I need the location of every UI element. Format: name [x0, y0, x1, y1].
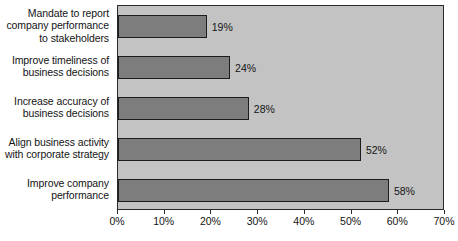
x-axis-tick-label: 30% [247, 215, 268, 228]
category-label: Increase accuracy ofbusiness decisions [0, 95, 109, 120]
x-axis-tick [397, 210, 398, 214]
x-axis-tick-label: 20% [200, 215, 221, 228]
x-axis-tick-labels: 0%10%20%30%40%50%60%70% [117, 215, 444, 231]
category-label-line: Improve company [0, 177, 109, 190]
x-axis-tick-label: 70% [433, 215, 454, 228]
category-label-line: Improve timeliness of [0, 54, 109, 67]
category-label-line: Increase accuracy of [0, 95, 109, 108]
category-label-line: with corporate strategy [0, 148, 109, 161]
plot-area: 19%24%28%52%58% [117, 5, 444, 210]
x-axis-tick [351, 210, 352, 214]
bar-value-label: 19% [212, 21, 233, 33]
category-label-line: Mandate to report [0, 7, 109, 20]
bar-value-label: 28% [254, 103, 275, 115]
category-label-line: business decisions [0, 107, 109, 120]
x-axis-tick-label: 60% [387, 215, 408, 228]
bar [118, 15, 207, 38]
category-label: Improve timeliness ofbusiness decisions [0, 54, 109, 79]
category-label-line: to stakeholders [0, 32, 109, 45]
bar [118, 179, 389, 202]
bars-layer: 19%24%28%52%58% [118, 6, 443, 209]
x-axis-tick [210, 210, 211, 214]
category-label-line: company performance [0, 19, 109, 32]
category-label: Improve companyperformance [0, 177, 109, 202]
bar-chart: Mandate to reportcompany performanceto s… [0, 0, 458, 241]
bar [118, 56, 230, 79]
category-label-line: business decisions [0, 66, 109, 79]
category-label-line: performance [0, 189, 109, 202]
bar-value-label: 58% [394, 185, 415, 197]
x-axis-tick [444, 210, 445, 214]
bar [118, 138, 361, 161]
bar [118, 97, 249, 120]
x-axis-tick-label: 10% [153, 215, 174, 228]
x-axis-tick [164, 210, 165, 214]
x-axis-tick [117, 210, 118, 214]
category-axis-labels: Mandate to reportcompany performanceto s… [0, 0, 113, 210]
x-axis-tick-label: 50% [340, 215, 361, 228]
x-axis-tick-label: 0% [109, 215, 124, 228]
x-axis-tick [304, 210, 305, 214]
category-label: Mandate to reportcompany performanceto s… [0, 7, 109, 45]
x-axis-tick-label: 40% [293, 215, 314, 228]
bar-value-label: 24% [235, 62, 256, 74]
bar-value-label: 52% [366, 144, 387, 156]
category-label-line: Align business activity [0, 136, 109, 149]
category-label: Align business activitywith corporate st… [0, 136, 109, 161]
x-axis-tick [257, 210, 258, 214]
